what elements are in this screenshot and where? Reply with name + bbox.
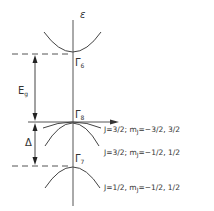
heavy-hole-label: J=3/2; mJ=−3/2, 3/2 [104, 126, 180, 135]
arrow-down-icon [33, 157, 38, 165]
energy-axis-label: ε [80, 10, 85, 20]
gamma7-label: Γ7 [75, 154, 84, 165]
gamma6-label: Γ6 [75, 58, 84, 69]
band-diagram [0, 0, 214, 211]
arrow-head-icon [110, 120, 119, 125]
arrow-down-icon [33, 113, 38, 121]
split-off-label: J=1/2, mJ=−1/2, 1/2 [104, 184, 180, 193]
light-hole-label: J=3/2; mJ=−1/2, 1/2 [104, 149, 180, 158]
arrow-up-icon [33, 123, 38, 131]
band-gap-label: Eg [18, 86, 28, 97]
light-hole-band [45, 123, 99, 146]
arrow-up-icon [33, 55, 38, 63]
split-off-gap-label: Δ [25, 138, 32, 148]
gamma8-label: Γ8 [75, 110, 84, 121]
